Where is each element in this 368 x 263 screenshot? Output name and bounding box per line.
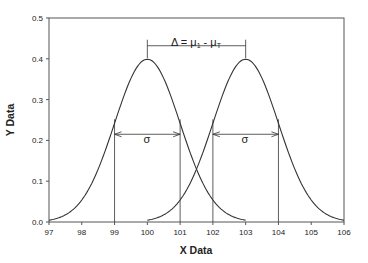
y-tick-label: 0.2	[32, 136, 44, 145]
sigma-label-right: σ	[242, 133, 249, 145]
x-tick-label: 104	[272, 228, 286, 237]
x-tick-label: 105	[305, 228, 319, 237]
sigma-boundary-lines	[115, 119, 279, 222]
x-tick-label: 97	[45, 228, 54, 237]
x-tick-label: 100	[141, 228, 155, 237]
x-tick-label: 99	[110, 228, 119, 237]
y-tick-label: 0.3	[32, 96, 44, 105]
x-tick-label: 102	[206, 228, 220, 237]
x-tick-label: 101	[173, 228, 187, 237]
x-axis-title: X Data	[180, 244, 213, 256]
y-axis-ticks: 0.00.10.20.30.40.5	[32, 14, 49, 227]
x-tick-label: 106	[337, 228, 351, 237]
y-tick-label: 0.4	[32, 55, 44, 64]
x-axis-ticks: 979899100101102103104105106	[45, 222, 352, 237]
y-tick-label: 0.1	[32, 177, 44, 186]
x-tick-label: 98	[77, 228, 86, 237]
sigma-arrows	[115, 132, 279, 137]
y-tick-label: 0.5	[32, 14, 44, 23]
distribution-curves	[49, 59, 344, 220]
y-axis-title: Y Data	[4, 104, 16, 137]
delta-label: Δ = μ1 - μT	[171, 36, 222, 49]
chart: 979899100101102103104105106 0.00.10.20.3…	[0, 0, 368, 263]
sigma-label-left: σ	[144, 133, 151, 145]
x-tick-label: 103	[239, 228, 253, 237]
y-tick-label: 0.0	[32, 218, 44, 227]
